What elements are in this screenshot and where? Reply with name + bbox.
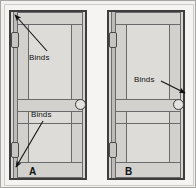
annotation-binds-a-lower: Binds (31, 110, 52, 119)
door-stile-left-b (116, 13, 127, 177)
door-rail-lower-b (116, 123, 180, 124)
door-hinge-upper-a (11, 32, 19, 48)
door-rail-top-a (18, 13, 82, 25)
door-stile-right-a (71, 13, 82, 177)
door-hinge-upper-b (109, 32, 117, 48)
door-panel-a: A (9, 10, 87, 180)
door-slab-b (115, 12, 181, 178)
annotation-binds-b: Binds (134, 75, 155, 84)
door-hinge-lower-a (11, 142, 19, 158)
door-rail-top-b (116, 13, 180, 25)
door-stile-left-a (18, 13, 29, 177)
door-rail-middle-b (116, 99, 180, 112)
panel-letter-a: A (29, 166, 36, 177)
door-panel-b: B (107, 10, 185, 180)
door-slab-a (17, 12, 83, 178)
door-hinge-lower-b (109, 142, 117, 158)
panel-letter-b: B (125, 166, 132, 177)
door-rail-bottom-a (18, 162, 82, 177)
door-knob-b (173, 99, 184, 110)
door-binding-figure: A B Binds Binds (0, 0, 196, 188)
annotation-binds-a-upper: Binds (29, 53, 50, 62)
door-stile-right-b (169, 13, 180, 177)
door-rail-lower-a (18, 123, 82, 124)
door-knob-a (75, 99, 86, 110)
